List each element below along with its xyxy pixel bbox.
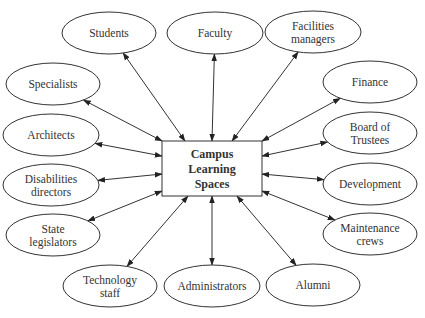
label-facilities-managers: Facilitiesmanagers <box>291 20 336 46</box>
arrow-alumni <box>237 196 296 265</box>
arrow-faculty <box>212 54 214 141</box>
node-board-of-trustees: Board ofTrustees <box>323 112 417 154</box>
arrow-maintenance-crews <box>262 191 335 220</box>
center-node: CampusLearningSpaces <box>162 141 262 196</box>
label-development: Development <box>339 178 402 191</box>
arrow-disabilities-directors <box>98 174 162 180</box>
arrow-architects <box>95 143 162 156</box>
label-alumni: Alumni <box>295 279 330 291</box>
arrow-development <box>262 174 324 180</box>
node-finance: Finance <box>323 61 417 103</box>
label-faculty: Faculty <box>198 27 233 40</box>
node-faculty: Faculty <box>167 12 263 54</box>
label-finance: Finance <box>352 76 388 88</box>
node-administrators: Administrators <box>164 265 260 307</box>
campus-learning-spaces-label: CampusLearningSpaces <box>188 147 235 191</box>
node-architects: Architects <box>3 114 99 156</box>
node-disabilities-directors: Disabilitiesdirectors <box>3 164 99 206</box>
label-disabilities-directors: Disabilitiesdirectors <box>25 173 78 198</box>
center-label-line: Campus <box>191 147 234 161</box>
label-administrators: Administrators <box>178 280 248 292</box>
label-architects: Architects <box>27 129 75 141</box>
arrow-board-of-trustees <box>262 142 328 156</box>
label-specialists: Specialists <box>28 78 78 91</box>
node-specialists: Specialists <box>6 63 100 105</box>
arrow-facilities-managers <box>232 52 298 141</box>
node-maintenance-crews: Maintenancecrews <box>323 213 417 255</box>
node-development: Development <box>323 163 417 205</box>
node-alumni: Alumni <box>266 264 360 306</box>
arrow-technology-staff <box>127 196 188 266</box>
arrow-state-legislators <box>88 191 162 221</box>
label-students: Students <box>89 27 129 39</box>
node-facilities-managers: Facilitiesmanagers <box>265 11 361 53</box>
arrow-students <box>123 53 185 141</box>
center-label-line: Spaces <box>195 177 230 191</box>
node-state-legislators: Statelegislators <box>6 214 100 256</box>
center-label-line: Learning <box>188 162 235 176</box>
stakeholder-diagram: StudentsFacultyFacilitiesmanagersSpecial… <box>0 0 425 318</box>
label-board-of-trustees: Board ofTrustees <box>350 121 391 146</box>
node-students: Students <box>62 12 156 54</box>
node-technology-staff: Technologystaff <box>63 265 157 307</box>
